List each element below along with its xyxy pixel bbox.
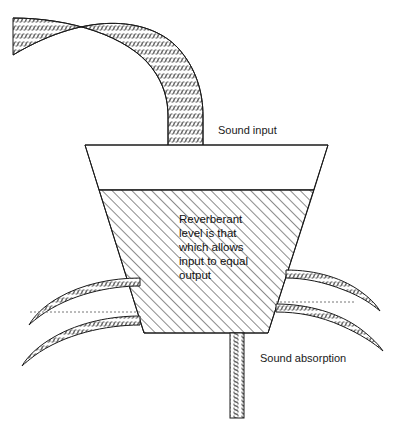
vessel-air-region: [85, 145, 328, 190]
vessel-upper-empty: [85, 145, 328, 190]
drain-pipe-body: [230, 333, 244, 418]
absorption-band-right-lower: [276, 304, 383, 351]
absorption-band-left-lower: [22, 316, 140, 366]
sound-absorption-drain-pipe: [230, 333, 244, 418]
caption-line-1: Reverberant: [179, 213, 243, 225]
caption-line-5: output: [179, 269, 212, 281]
diagram-canvas: Sound input Sound absorption Reverberant…: [0, 0, 404, 422]
caption-line-4: input to equal: [179, 255, 248, 267]
sound-absorption-label: Sound absorption: [260, 352, 346, 364]
caption-line-2: level is that: [179, 227, 237, 239]
caption-line-3: which allows: [178, 241, 244, 253]
sound-absorption-bands-right: [276, 270, 383, 351]
absorption-band-right-upper: [286, 270, 380, 311]
sound-absorption-bands-left: [22, 278, 141, 366]
reverberant-level-diagram: Sound input Sound absorption Reverberant…: [0, 0, 404, 422]
sound-input-label: Sound input: [218, 124, 277, 136]
